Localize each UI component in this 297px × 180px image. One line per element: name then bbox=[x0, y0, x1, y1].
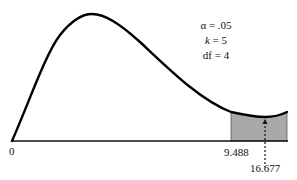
tick-label-zero: 0 bbox=[9, 145, 15, 157]
chi-square-chart bbox=[0, 0, 297, 180]
alpha-label: α = .05 bbox=[186, 18, 246, 33]
k-label: k = 5 bbox=[186, 33, 246, 48]
parameter-annotations: α = .05 k = 5 df = 4 bbox=[186, 18, 246, 63]
tick-label-critical-value: 9.488 bbox=[224, 146, 249, 158]
df-label: df = 4 bbox=[186, 48, 246, 63]
tick-label-test-statistic: 16.677 bbox=[250, 162, 280, 174]
